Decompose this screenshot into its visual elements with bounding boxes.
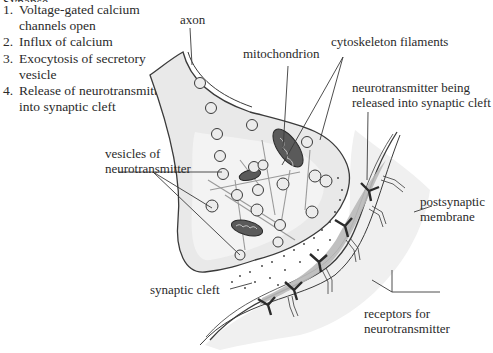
label-nt-released-line2: released into synaptic cleft [352,95,491,110]
label-mitochondrion: mitochondrion [243,46,320,61]
label-nt-released: neurotransmitter being released into syn… [352,80,491,110]
label-vesicles: vesicles of neurotransmitter [105,146,191,176]
label-cytoskeleton-filaments: cytoskeleton filaments [331,34,448,49]
label-postsynaptic-line2: membrane [420,209,475,224]
label-axon: axon [180,12,205,27]
label-nt-released-line1: neurotransmitter being [352,80,470,95]
label-postsynaptic-membrane: postsynaptic membrane [420,194,485,224]
label-vesicles-line2: neurotransmitter [105,161,191,176]
label-receptors-line2: neurotransmitter [364,321,450,336]
label-postsynaptic-line1: postsynaptic [420,194,485,209]
label-receptors-line1: receptors for [364,306,430,321]
label-synaptic-cleft: synaptic cleft [150,282,220,297]
label-vesicles-line1: vesicles of [105,146,160,161]
label-receptors: receptors for neurotransmitter [364,306,450,336]
